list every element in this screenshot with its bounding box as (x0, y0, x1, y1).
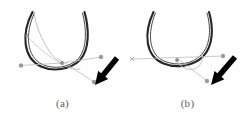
panel-a-canvas (0, 0, 125, 100)
annotation-arrow (95, 56, 119, 85)
node-center (60, 61, 63, 64)
node-upper-left (26, 35, 29, 38)
annotation-arrow (211, 55, 237, 85)
figure-root: (a) (b) (0, 0, 250, 121)
node-center (175, 58, 178, 61)
node-left (19, 64, 23, 68)
node-right (99, 55, 103, 59)
node-right (221, 54, 225, 58)
u-curve-inner-highlight (28, 13, 85, 67)
u-curve-inner-highlight (150, 13, 209, 64)
panel-b-caption: (b) (125, 96, 250, 110)
panel-b-canvas (125, 0, 250, 100)
figure-panel-b: (b) (125, 0, 250, 121)
panel-a-caption: (a) (0, 96, 125, 110)
node-target (205, 79, 209, 83)
node-target (92, 80, 96, 84)
guide-line-left (21, 63, 62, 66)
figure-panel-a: (a) (0, 0, 125, 121)
guide-arc (34, 12, 80, 69)
